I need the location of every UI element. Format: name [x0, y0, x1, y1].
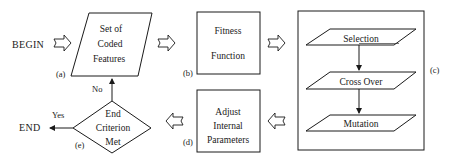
begin-label: BEGIN [12, 39, 44, 50]
svg-text:Set of: Set of [100, 24, 123, 34]
edge-label-no: No [92, 84, 102, 94]
node-tag-c: (c) [430, 65, 440, 75]
svg-text:End: End [105, 109, 121, 119]
node-tag-d: (d) [183, 137, 193, 147]
svg-text:Parameters: Parameters [207, 135, 250, 145]
svg-text:Cross Over: Cross Over [339, 77, 383, 87]
node-genetic-operators: Selection Cross Over Mutation [298, 11, 424, 150]
node-tag-a: (a) [56, 69, 66, 79]
flowchart-diagram: BEGIN Set of Coded Features (a) Fitness … [0, 0, 450, 163]
svg-text:Criterion: Criterion [96, 123, 131, 133]
svg-text:Function: Function [211, 51, 245, 61]
svg-text:Met: Met [105, 137, 121, 147]
end-label: END [19, 122, 40, 133]
hollow-arrow-right-icon [54, 35, 71, 51]
node-end-criterion: End Criterion Met [73, 101, 151, 153]
svg-text:Internal: Internal [213, 121, 243, 131]
hollow-arrow-left-icon [268, 113, 285, 129]
svg-text:Adjust: Adjust [215, 107, 241, 117]
svg-text:Features: Features [93, 54, 125, 64]
svg-text:Coded: Coded [98, 39, 123, 49]
svg-text:Mutation: Mutation [344, 119, 379, 129]
node-fitness-function: Fitness Function [197, 12, 260, 74]
hollow-arrow-right-icon [268, 35, 285, 51]
svg-text:Fitness: Fitness [215, 26, 242, 36]
svg-text:Selection: Selection [343, 34, 379, 44]
hollow-arrow-right-icon [158, 35, 175, 51]
node-tag-e: (e) [75, 140, 85, 150]
node-adjust-parameters: Adjust Internal Parameters [197, 90, 260, 152]
edge-label-yes: Yes [52, 110, 64, 120]
node-coded-features: Set of Coded Features [71, 13, 152, 76]
hollow-arrow-left-icon [166, 113, 183, 129]
node-tag-b: (b) [183, 68, 193, 78]
